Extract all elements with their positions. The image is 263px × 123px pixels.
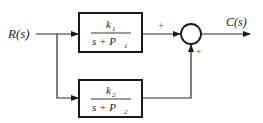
input-label: R(s): [7, 26, 30, 41]
g1-denominator-subscript: 1: [124, 42, 128, 50]
sum-sign-bottom: +: [196, 46, 202, 57]
g2-numerator-subscript: 2: [112, 91, 116, 99]
output-label: C(s): [226, 15, 247, 29]
g2-denominator: s + P: [92, 101, 116, 113]
transfer-block-g1: k 1 s + P 1: [79, 13, 142, 52]
g2-denominator-subscript: 2: [124, 108, 128, 116]
block-diagram: R(s) k 1 s + P 1 k 2 s + P 2 + + C(s): [0, 0, 263, 123]
g1-numerator-subscript: 1: [112, 25, 116, 33]
branch-line: [57, 34, 78, 98]
sum-sign-top: +: [158, 20, 164, 31]
g2-output-line: [142, 45, 191, 98]
summing-junction: [181, 24, 201, 44]
g1-denominator: s + P: [92, 35, 116, 47]
transfer-block-g2: k 2 s + P 2: [79, 80, 142, 117]
